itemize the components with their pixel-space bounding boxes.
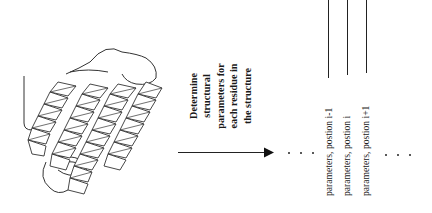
dot [312, 152, 314, 154]
dot [409, 154, 411, 156]
dot [397, 154, 399, 156]
step-line-1: Determine [187, 61, 200, 131]
step-line-2: structural [200, 61, 213, 131]
output-label-i-minus-1: parameters, postion i-1 [323, 108, 334, 196]
step-line-5: the structure [241, 61, 254, 131]
step-description-rotated: Determine structural parameters for each… [187, 61, 254, 131]
output-line-1 [328, 0, 329, 78]
output-line-3 [366, 0, 367, 73]
arrow-right-icon [178, 147, 278, 159]
dot [288, 152, 290, 154]
dot [300, 152, 302, 154]
protein-structure-ribbon [18, 38, 168, 208]
output-label-i-plus-1: parameters, postion i+1 [360, 106, 371, 196]
step-line-3: parameters for [214, 61, 227, 131]
output-label-i: parameters, postion i [341, 116, 352, 196]
dot [385, 154, 387, 156]
step-description: Determine structural parameters for each… [187, 131, 257, 201]
output-line-2 [347, 0, 348, 75]
step-line-4: each residue in [227, 61, 240, 131]
